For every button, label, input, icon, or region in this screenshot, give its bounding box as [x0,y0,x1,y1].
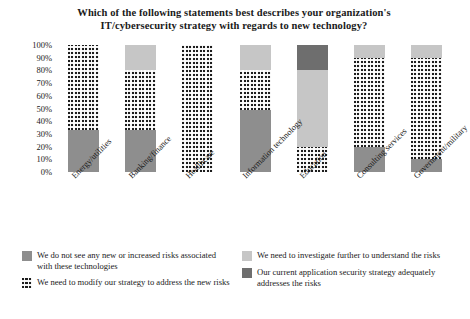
bar-segment[interactable] [297,70,328,146]
x-axis-labels: Energy/utilitiesBanking/financeHealthcar… [55,174,455,246]
y-axis-tick: 20% [36,143,52,152]
chart-title-line-1: Which of the following statements best d… [77,7,390,18]
y-axis-tick: 10% [36,155,52,164]
bar-segment[interactable] [354,58,385,147]
legend-item[interactable]: Our current application security strateg… [242,267,452,288]
bar-segment[interactable] [240,70,271,109]
legend-item[interactable]: We need to investigate further to unders… [242,250,452,261]
legend-swatch-darkgray [242,268,252,278]
y-axis-tick: 80% [36,66,52,75]
legend-label: We need to investigate further to unders… [257,250,440,261]
chart-legend: We do not see any new or increased risks… [22,250,452,308]
chart-title-line-2: IT/cybersecurity strategy with regards t… [28,19,440,32]
legend-swatch-dotted [22,278,32,288]
bar-segment[interactable] [411,58,442,160]
y-axis-tick: 0% [41,168,52,177]
legend-swatch-midgray [22,251,32,261]
bar-segment[interactable] [354,45,385,58]
bar-segment[interactable] [125,70,156,130]
y-axis-tick: 60% [36,92,52,101]
plot-area [55,45,455,172]
legend-label: Our current application security strateg… [257,267,452,288]
y-axis-tick: 40% [36,117,52,126]
y-axis-tick: 50% [36,105,52,114]
legend-item[interactable]: We do not see any new or increased risks… [22,250,232,271]
legend-label: We do not see any new or increased risks… [37,250,232,271]
bar-segment[interactable] [68,45,99,130]
bar-segment[interactable] [125,45,156,70]
legend-item[interactable]: We need to modify our strategy to addres… [22,277,232,288]
y-axis-tick: 90% [36,54,52,63]
y-axis: 100%90%80%70%60%50%40%30%20%10%0% [18,38,52,179]
legend-label: We need to modify our strategy to addres… [37,277,230,288]
legend-column-right: We need to investigate further to unders… [242,250,452,308]
y-axis-tick: 100% [32,41,52,50]
chart-title: Which of the following statements best d… [28,6,440,32]
bar-segment[interactable] [297,45,328,70]
bar-segment[interactable] [240,45,271,70]
y-axis-tick: 70% [36,79,52,88]
y-axis-tick: 30% [36,130,52,139]
legend-column-left: We do not see any new or increased risks… [22,250,232,308]
bar-segment[interactable] [411,45,442,58]
legend-swatch-lightgray [242,251,252,261]
